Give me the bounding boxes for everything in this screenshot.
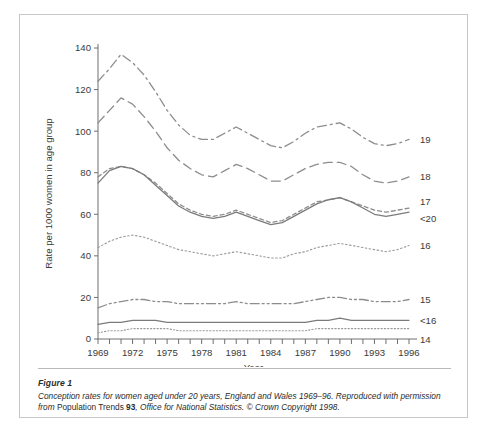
chart-plot-area: 0204060801001201401969197219751978198119… xyxy=(20,15,469,367)
chart-series-group xyxy=(98,54,409,333)
series-label-18: 18 xyxy=(420,171,431,182)
y-tick-label: 140 xyxy=(75,42,91,53)
axis-lines xyxy=(98,44,417,339)
y-tick-label: 0 xyxy=(86,333,91,344)
caption-title: Figure 1 xyxy=(38,378,453,390)
caption-source-name: Population Trends xyxy=(57,402,124,412)
series-line-19 xyxy=(98,54,409,148)
y-tick-label: 120 xyxy=(75,84,91,95)
x-axis-title: Year xyxy=(244,362,264,367)
x-tick-label: 1969 xyxy=(87,347,108,358)
series-line-under16 xyxy=(98,318,409,324)
y-tick-label: 80 xyxy=(80,167,91,178)
series-line-18 xyxy=(98,98,409,183)
x-tick-label: 1984 xyxy=(260,347,282,358)
series-line-16 xyxy=(98,235,409,258)
y-tick-label: 60 xyxy=(80,209,91,220)
y-axis-title: Rate per 1000 women in age group xyxy=(43,118,54,268)
chart-series-labels: 191817<201615<1614 xyxy=(420,134,436,345)
caption-text: Conception rates for women aged under 20… xyxy=(38,391,453,414)
series-label-under16: <16 xyxy=(420,315,436,326)
x-tick-label: 1975 xyxy=(156,347,177,358)
x-tick-label: 1987 xyxy=(295,347,316,358)
caption-divider xyxy=(38,368,451,369)
figure-container: 0204060801001201401969197219751978198119… xyxy=(19,14,468,418)
x-tick-label: 1990 xyxy=(329,347,350,358)
x-tick-label: 1972 xyxy=(122,347,143,358)
series-label-14: 14 xyxy=(420,334,431,345)
chart-axes: 0204060801001201401969197219751978198119… xyxy=(43,42,420,367)
x-tick-label: 1981 xyxy=(226,347,247,358)
y-tick-label: 40 xyxy=(80,250,91,261)
caption-line-2-suffix: , Office for National Statistics. © Crow… xyxy=(135,402,339,412)
x-tick-label: 1993 xyxy=(364,347,385,358)
caption-line-1: Conception rates for women aged under 20… xyxy=(38,391,398,401)
x-tick-label: 1996 xyxy=(398,347,419,358)
figure-caption: Figure 1 Conception rates for women aged… xyxy=(38,378,453,414)
y-tick-label: 20 xyxy=(80,292,91,303)
series-label-15: 15 xyxy=(420,294,431,305)
series-line-15 xyxy=(98,297,409,307)
series-label-under20: <20 xyxy=(420,213,436,224)
conception-rates-line-chart: 0204060801001201401969197219751978198119… xyxy=(20,15,469,367)
y-tick-label: 100 xyxy=(75,126,91,137)
series-label-17: 17 xyxy=(420,196,431,207)
caption-source-number: 93 xyxy=(126,402,135,412)
series-label-19: 19 xyxy=(420,134,431,145)
series-line-14 xyxy=(98,329,409,333)
x-tick-label: 1978 xyxy=(191,347,212,358)
series-label-16: 16 xyxy=(420,240,431,251)
